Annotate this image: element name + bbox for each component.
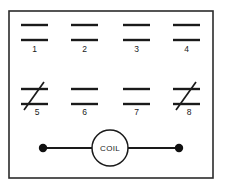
contact-2-label: 2 bbox=[82, 44, 87, 54]
contact-7[interactable]: 7 bbox=[123, 89, 150, 117]
contact-4-label: 4 bbox=[184, 44, 189, 54]
contact-6-label: 6 bbox=[82, 107, 87, 117]
coil-circuit: COIL bbox=[39, 130, 183, 166]
contact-3-label: 3 bbox=[134, 44, 139, 54]
upper-contact-row: 1 2 3 4 bbox=[21, 25, 200, 54]
lower-contact-row: 5 6 7 8 bbox=[21, 82, 200, 117]
contact-8-normally-closed-slash-icon bbox=[176, 82, 196, 110]
contact-1-label: 1 bbox=[32, 44, 37, 54]
contact-3[interactable]: 3 bbox=[123, 25, 150, 54]
contact-7-label: 7 bbox=[134, 107, 139, 117]
contact-2[interactable]: 2 bbox=[71, 25, 98, 54]
contact-5[interactable]: 5 bbox=[21, 82, 48, 117]
contact-4[interactable]: 4 bbox=[173, 25, 200, 54]
coil-left-terminal-dot[interactable] bbox=[39, 144, 47, 152]
coil-right-terminal-dot[interactable] bbox=[175, 144, 183, 152]
contact-8-label: 8 bbox=[187, 107, 192, 117]
contact-5-label: 5 bbox=[35, 107, 40, 117]
contact-5-normally-closed-slash-icon bbox=[24, 82, 44, 110]
relay-contact-and-coil-diagram: 1 2 3 4 5 6 bbox=[0, 0, 225, 187]
contact-8[interactable]: 8 bbox=[173, 82, 200, 117]
contact-6[interactable]: 6 bbox=[71, 89, 98, 117]
contact-1[interactable]: 1 bbox=[21, 25, 48, 54]
coil-label: COIL bbox=[100, 144, 120, 153]
